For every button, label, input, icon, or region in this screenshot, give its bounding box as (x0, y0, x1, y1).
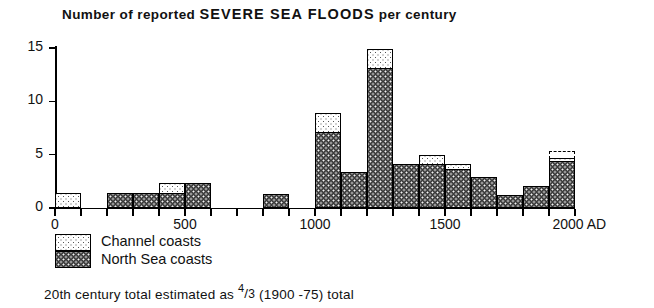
segment-north-sea-500-600 (185, 183, 211, 208)
plot-area: 051015 0500100015002000 AD (0, 0, 654, 308)
x-tick-300 (132, 209, 134, 216)
x-tick-1000 (314, 209, 316, 216)
x-tick-800 (262, 209, 264, 216)
x-tick-400 (158, 209, 160, 216)
y-axis-label-15: 15 (9, 38, 43, 54)
y-tick-5 (49, 154, 55, 156)
x-tick-1100 (340, 209, 342, 216)
segment-north-sea-400-500 (159, 193, 185, 208)
segment-channel-1000-1100 (315, 113, 341, 134)
x-tick-500 (184, 209, 186, 216)
x-axis-label-0: 0 (51, 216, 59, 232)
x-axis-label-500: 500 (173, 216, 196, 232)
footnote-denominator: 3 (248, 287, 255, 301)
footnote-lead: 20th century total estimated as (44, 287, 238, 302)
segment-channel-400-500 (159, 183, 185, 194)
bar-500-600 (185, 185, 211, 208)
x-axis-label-2000: 2000 AD (552, 216, 606, 232)
segment-north-sea-1400-1500 (419, 164, 445, 208)
segment-north-sea-1900-2000 (549, 161, 575, 208)
bar-0-100 (55, 194, 81, 208)
y-tick-15 (49, 47, 55, 49)
bar-1800-1900 (523, 188, 549, 208)
x-axis-label-1000: 1000 (299, 216, 330, 232)
x-tick-2000 (574, 209, 576, 216)
x-tick-1800 (522, 209, 524, 216)
segment-north-sea-800-900 (263, 194, 289, 208)
x-tick-1600 (470, 209, 472, 216)
x-tick-700 (236, 209, 238, 216)
segment-north-sea-1700-1800 (497, 195, 523, 208)
segment-channel-0-100 (55, 193, 81, 208)
x-tick-1300 (392, 209, 394, 216)
segment-north-sea-1800-1900 (523, 186, 549, 208)
x-tick-1200 (366, 209, 368, 216)
y-tick-10 (49, 101, 55, 103)
bar-1700-1800 (497, 196, 523, 208)
bar-400-500 (159, 185, 185, 208)
x-tick-1400 (418, 209, 420, 216)
x-tick-1900 (548, 209, 550, 216)
segment-north-sea-1500-1600 (445, 168, 471, 208)
segment-north-sea-200-300 (107, 193, 133, 208)
segment-north-sea-1000-1100 (315, 132, 341, 208)
x-axis-label-1500: 1500 (429, 216, 460, 232)
x-tick-600 (210, 209, 212, 216)
x-tick-200 (106, 209, 108, 216)
legend-swatch-channel (55, 234, 91, 251)
bar-300-400 (133, 194, 159, 208)
footnote: 20th century total estimated as 4/3 (190… (44, 283, 354, 302)
y-axis-label-10: 10 (9, 91, 43, 107)
bar-1600-1700 (471, 178, 497, 208)
chart-page: Number of reported SEVERE SEA FLOODS per… (0, 0, 654, 308)
x-tick-1700 (496, 209, 498, 216)
y-axis-line (55, 46, 57, 209)
segment-channel-1500-1600 (445, 164, 471, 170)
segment-north-sea-1200-1300 (367, 68, 393, 208)
segment-channel-1400-1500 (419, 155, 445, 165)
x-tick-900 (288, 209, 290, 216)
bar-1400-1500 (419, 157, 445, 208)
bar-1900-2000 (549, 153, 575, 208)
segment-north-sea-1100-1200 (341, 172, 367, 208)
x-tick-1500 (444, 209, 446, 216)
segment-north-sea-300-400 (133, 193, 159, 208)
legend-label-north-sea: North Sea coasts (101, 251, 212, 267)
footnote-fraction: 4/3 (238, 282, 255, 301)
segment-north-sea-1300-1400 (393, 164, 419, 208)
bar-1500-1600 (445, 165, 471, 208)
y-axis-label-0: 0 (9, 198, 43, 214)
bar-1200-1300 (367, 50, 393, 208)
bar-800-900 (263, 195, 289, 208)
y-axis-label-5: 5 (9, 145, 43, 161)
x-tick-0 (54, 209, 56, 216)
legend-swatch-north-sea (55, 251, 91, 268)
bar-200-300 (107, 194, 133, 208)
bar-1300-1400 (393, 165, 419, 208)
legend-label-channel: Channel coasts (101, 233, 201, 249)
bar-1000-1100 (315, 114, 341, 208)
x-tick-100 (80, 209, 82, 216)
segment-north-sea-1600-1700 (471, 177, 497, 208)
footnote-tail: (1900 -75) total (255, 287, 354, 302)
bar-1100-1200 (341, 174, 367, 208)
segment-channel-1200-1300 (367, 49, 393, 70)
segment-estimate-1900-2000 (549, 151, 575, 159)
